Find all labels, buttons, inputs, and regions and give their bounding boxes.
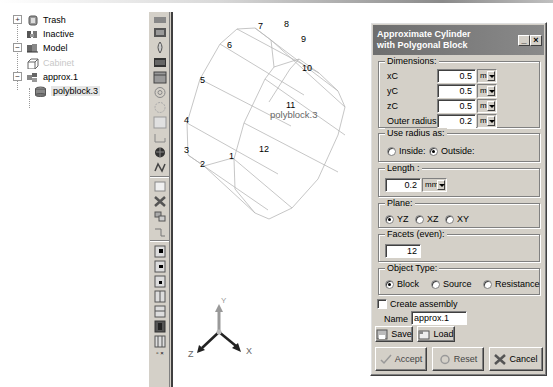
radio-label: Source [443, 279, 472, 289]
dropdown-arrow-icon[interactable] [487, 101, 495, 111]
length-input[interactable]: 0.2 [385, 178, 421, 192]
model-icon [26, 43, 39, 54]
duct-icon[interactable] [152, 130, 168, 145]
dropdown-arrow-icon[interactable] [487, 71, 495, 81]
inside-radio[interactable]: Inside: [387, 146, 426, 156]
close-icon: × [533, 35, 538, 45]
dialog-titlebar[interactable]: Approximate Cylinder with Polygonal Bloc… [373, 25, 544, 55]
fan-icon[interactable] [152, 85, 168, 100]
yc-unit-select[interactable]: m [477, 84, 497, 98]
cabinet-icon [26, 58, 39, 69]
facets-input[interactable]: 12 [385, 244, 421, 258]
source-icon[interactable] [152, 40, 168, 55]
dropdown-arrow-icon[interactable] [437, 180, 445, 190]
radio-label: Resistance [495, 279, 540, 289]
toolbar-scroll-icon[interactable]: ▫ × [152, 349, 168, 357]
source-radio[interactable]: Source [431, 279, 472, 289]
radio-selected-icon [385, 280, 394, 289]
heatsink-icon[interactable] [152, 145, 168, 160]
radio-label: Outside: [441, 146, 475, 156]
grid-2-icon[interactable] [152, 259, 168, 274]
block-radio[interactable]: Block [385, 279, 419, 289]
collapse-icon[interactable]: − [13, 43, 22, 52]
tree-item-trash[interactable]: + Trash [13, 13, 66, 27]
plane-xy-radio[interactable]: XY [445, 214, 469, 224]
plane-xz-radio[interactable]: XZ [415, 214, 439, 224]
radio-label: Inside: [399, 146, 426, 156]
dropdown-arrow-icon[interactable] [487, 116, 495, 126]
close-button[interactable]: × [530, 35, 542, 46]
expand-icon[interactable]: + [13, 15, 22, 24]
grid-7-icon[interactable] [152, 334, 168, 349]
name-label: Name [384, 314, 408, 324]
group-title: Length : [385, 163, 422, 173]
xc-input[interactable]: 0.5 [437, 69, 476, 83]
radio-label: YZ [397, 214, 409, 224]
plate-icon[interactable] [152, 55, 168, 70]
save-button[interactable]: Save [375, 326, 413, 342]
resistance-radio[interactable]: Resistance [483, 279, 540, 289]
dropdown-arrow-icon[interactable] [487, 86, 495, 96]
axes-triad: Y X Z [188, 296, 252, 359]
accept-label: Accept [395, 354, 423, 364]
network-icon[interactable] [152, 160, 168, 175]
collapse-icon[interactable]: − [13, 72, 22, 81]
unit-value: m [480, 86, 487, 95]
tree-item-approx[interactable]: − approx.1 [13, 70, 78, 84]
cancel-button[interactable]: Cancel [489, 347, 543, 371]
plane-yz-radio[interactable]: YZ [385, 214, 409, 224]
enclosure-icon[interactable] [152, 70, 168, 85]
outside-radio[interactable]: Outside: [429, 146, 475, 156]
load-icon [418, 329, 430, 340]
group-title: Facets (even): [385, 229, 447, 239]
grid-6-icon[interactable] [152, 319, 168, 334]
tree-item-inactive[interactable]: Inactive [26, 27, 74, 41]
length-unit-select[interactable]: mm [422, 178, 447, 192]
y-axis-label: Y [221, 296, 227, 305]
tree-item-cabinet[interactable]: Cabinet [26, 56, 74, 70]
object-type-group: Object Type: Block Source Resistance [378, 268, 540, 295]
vertex-label: 3 [184, 145, 189, 155]
facets-group: Facets (even): 12 [378, 234, 540, 262]
name-input[interactable]: approx.1 [411, 311, 467, 325]
outer-radius-unit-select[interactable]: m [477, 114, 497, 128]
polyblock-wireframe: 1 2 3 4 5 6 7 8 9 10 11 12 polyblock.3 Y… [174, 12, 364, 387]
polyblock-icon [34, 86, 47, 97]
accept-button[interactable]: Accept [375, 347, 427, 371]
cuboid-icon[interactable] [152, 179, 168, 194]
zc-unit-select[interactable]: m [477, 99, 497, 113]
tree-item-polyblock[interactable]: polyblock.3 [34, 84, 100, 98]
dialog-title-line2: with Polygonal Block [377, 40, 540, 51]
reset-button[interactable]: Reset [432, 347, 484, 371]
yc-input[interactable]: 0.5 [437, 84, 476, 98]
grid-1-icon[interactable] [152, 244, 168, 259]
reset-label: Reset [454, 354, 478, 364]
cross-icon[interactable] [152, 194, 168, 209]
outer-radius-input[interactable]: 0.2 [437, 114, 476, 128]
3d-viewport[interactable]: 1 2 3 4 5 6 7 8 9 10 11 12 polyblock.3 Y… [174, 12, 364, 387]
load-button[interactable]: Load [417, 326, 455, 342]
zc-input[interactable]: 0.5 [437, 99, 476, 113]
square-icon[interactable] [152, 115, 168, 130]
save-label: Save [391, 329, 412, 339]
create-assembly-checkbox[interactable] [377, 299, 387, 309]
inactive-icon [26, 29, 39, 40]
checkmark-icon [380, 354, 392, 365]
radio-label: XY [457, 214, 469, 224]
assembly-tool-icon[interactable] [152, 209, 168, 224]
grid-4-icon[interactable] [152, 289, 168, 304]
tree-item-model[interactable]: − Model [13, 41, 68, 55]
group-title: Dimensions: [385, 56, 439, 66]
z-axis-label: Z [188, 349, 194, 359]
toolbar-border [170, 12, 173, 387]
region-icon[interactable] [152, 224, 168, 239]
unit-value: m [480, 71, 487, 80]
xc-unit-select[interactable]: m [477, 69, 497, 83]
grid-3-icon[interactable] [152, 274, 168, 289]
blower-icon[interactable] [152, 100, 168, 115]
grid-5-icon[interactable] [152, 304, 168, 319]
minimize-button[interactable]: _ [518, 35, 530, 46]
trash-icon [26, 15, 39, 26]
load-label: Load [433, 329, 453, 339]
block-icon[interactable] [152, 25, 168, 40]
